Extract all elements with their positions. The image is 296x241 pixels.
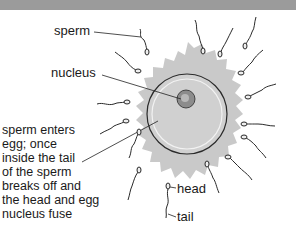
description-line: inside the tail [2,151,102,165]
description-line: nucleus fuse [2,207,102,221]
description-line: sperm enters [2,123,102,137]
egg-nucleus-core [181,94,189,102]
fertilization-description: sperm enters egg; once inside the tail o… [2,123,102,221]
description-line: egg; once [2,137,102,151]
description-line: breaks off and [2,179,102,193]
description-line: of the sperm [2,165,102,179]
label-nucleus: nucleus [51,66,96,80]
label-tail: tail [177,210,194,224]
egg-membrane [147,74,227,154]
label-sperm: sperm [54,24,90,38]
description-line: the head and egg [2,193,102,207]
label-head: head [177,182,206,196]
